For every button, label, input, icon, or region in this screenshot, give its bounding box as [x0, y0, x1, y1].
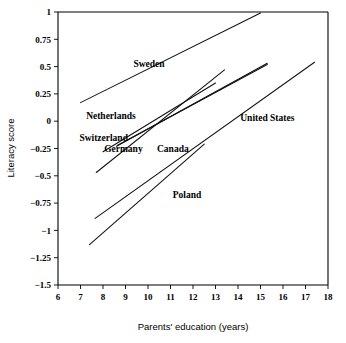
x-tick-label: 7: [78, 292, 83, 302]
series-labels: SwedenNetherlandsSwitzerlandGermanyCanad…: [79, 59, 294, 200]
data-series-lines: [81, 13, 315, 245]
x-tick-label: 8: [101, 292, 106, 302]
y-tick-label: 0.5: [40, 62, 52, 72]
y-tick-label: 0.25: [35, 89, 51, 99]
x-tick-label: 18: [324, 292, 334, 302]
y-tick-label: −1.25: [30, 253, 51, 263]
series-label-canada: Canada: [157, 144, 189, 154]
y-tick-label: −0.25: [30, 144, 51, 154]
literacy-score-chart: 10.750.50.250−0.25−0.5−0.75−1−1.25−1.567…: [0, 0, 346, 343]
x-axis-title: Parents' education (years): [138, 321, 249, 332]
x-tick-label: 10: [144, 292, 154, 302]
series-label-germany: Germany: [104, 144, 143, 154]
x-tick-label: 16: [279, 292, 289, 302]
tick-labels: 10.750.50.250−0.25−0.5−0.75−1−1.25−1.567…: [30, 7, 333, 302]
y-tick-label: 1: [47, 7, 52, 17]
x-tick-label: 15: [256, 292, 266, 302]
x-tick-label: 17: [301, 292, 311, 302]
series-label-netherlands: Netherlands: [86, 111, 136, 121]
series-line-sweden: [81, 13, 261, 103]
series-label-switzerland: Switzerland: [79, 133, 128, 143]
y-axis-title: Literacy score: [5, 118, 16, 177]
series-label-poland: Poland: [173, 190, 202, 200]
y-tick-label: 0: [47, 116, 52, 126]
x-tick-label: 13: [211, 292, 221, 302]
series-label-united-states: United States: [240, 113, 294, 123]
series-label-sweden: Sweden: [133, 59, 165, 69]
y-tick-label: 0.75: [35, 35, 51, 45]
x-tick-label: 14: [234, 292, 244, 302]
y-tick-label: −1: [41, 226, 51, 236]
x-tick-label: 9: [123, 292, 128, 302]
chart-svg: 10.750.50.250−0.25−0.5−0.75−1−1.25−1.567…: [0, 0, 346, 343]
series-line-canada: [118, 64, 268, 145]
y-tick-label: −0.5: [35, 171, 52, 181]
y-tick-label: −0.75: [30, 198, 51, 208]
x-tick-label: 6: [56, 292, 61, 302]
x-tick-label: 12: [189, 292, 199, 302]
y-tick-label: −1.5: [35, 280, 52, 290]
x-tick-label: 11: [166, 292, 175, 302]
